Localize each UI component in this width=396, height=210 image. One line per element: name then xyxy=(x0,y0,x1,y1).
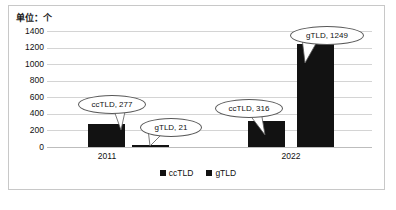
y-tick-1200: 1200 xyxy=(10,43,44,52)
legend-entry-gTLD: gTLD xyxy=(206,168,236,178)
y-tick-1000: 1000 xyxy=(10,60,44,69)
y-tick-1400: 1400 xyxy=(10,27,44,36)
callout-gTLD-2022-label: gTLD, 1249 xyxy=(306,31,348,40)
gridline-0 xyxy=(47,147,372,148)
callout-ccTLD-2022: ccTLD, 316 xyxy=(215,99,283,118)
legend-swatch-ccTLD-icon xyxy=(160,170,166,176)
y-tick-0: 0 xyxy=(10,143,44,152)
y-tick-800: 800 xyxy=(10,76,44,85)
y-tick-200: 200 xyxy=(10,126,44,135)
plot-area xyxy=(47,31,372,147)
legend-label-ccTLD: ccTLD xyxy=(169,168,194,178)
callout-ccTLD-2011: ccTLD, 277 xyxy=(78,95,146,114)
unit-label: 单位：个 xyxy=(16,11,52,24)
legend-entry-ccTLD: ccTLD xyxy=(160,168,194,178)
chart-legend: ccTLD gTLD xyxy=(0,168,396,178)
callout-gTLD-2011: gTLD, 21 xyxy=(140,118,202,137)
legend-swatch-gTLD-icon xyxy=(206,170,212,176)
callout-ccTLD-2011-label: ccTLD, 277 xyxy=(92,100,133,109)
callout-ccTLD-2022-label: ccTLD, 316 xyxy=(229,104,270,113)
callout-gTLD-2022: gTLD, 1249 xyxy=(290,26,364,45)
y-tick-600: 600 xyxy=(10,93,44,102)
x-tick-2011: 2011 xyxy=(77,151,137,161)
legend-label-gTLD: gTLD xyxy=(215,168,236,178)
callout-gTLD-2011-label: gTLD, 21 xyxy=(155,123,188,132)
y-tick-400: 400 xyxy=(10,109,44,118)
chart-figure: 单位：个 1400 1200 1000 800 600 400 200 0 20… xyxy=(0,0,396,210)
x-tick-2022: 2022 xyxy=(261,151,321,161)
